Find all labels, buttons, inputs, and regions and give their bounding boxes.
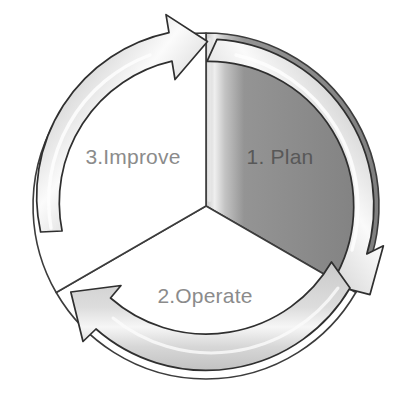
sector-label-improve: 3.Improve xyxy=(85,145,180,168)
cycle-diagram: 1. Plan 2.Operate 3.Improve xyxy=(0,0,410,402)
sector-label-operate: 2.Operate xyxy=(157,284,252,307)
sector-label-plan: 1. Plan xyxy=(247,145,314,168)
cycle-diagram-canvas: 1. Plan 2.Operate 3.Improve xyxy=(0,0,410,402)
